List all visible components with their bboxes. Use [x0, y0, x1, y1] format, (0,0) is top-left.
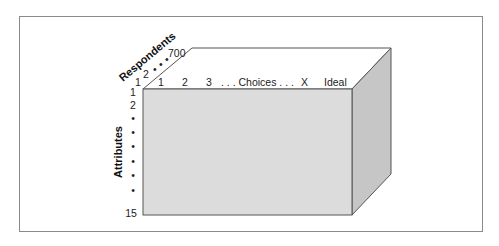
attribute-dot: • [131, 112, 135, 124]
choice-label: 3 [206, 76, 212, 88]
attribute-dot: • [131, 155, 135, 167]
choice-label: X [301, 76, 308, 88]
attribute-label: 15 [125, 207, 137, 219]
attribute-label: 1 [130, 86, 136, 98]
attribute-dot: • [131, 126, 135, 138]
attribute-dot: • [131, 169, 135, 181]
respondent-dot: • [153, 63, 157, 75]
attribute-dot: • [131, 184, 135, 196]
choice-label: 2 [182, 76, 188, 88]
attributes-axis-title: Attributes [112, 126, 124, 178]
respondent-dot: • [159, 58, 163, 70]
data-cube-diagram: 1 2 3 . . . Choices . . . X Ideal 1 2 • … [0, 0, 499, 246]
respondent-label: 2 [143, 68, 149, 80]
choices-title: . . . Choices . . . [221, 76, 294, 88]
respondent-label: 700 [168, 47, 186, 59]
attribute-label: 2 [130, 99, 136, 111]
choice-label: 1 [158, 76, 164, 88]
choice-label-ideal: Ideal [324, 76, 347, 88]
attributes-axis-labels: 1 2 • • • • • • 15 Attributes [112, 86, 137, 219]
cube-front-face [143, 89, 352, 215]
attribute-dot: • [131, 140, 135, 152]
